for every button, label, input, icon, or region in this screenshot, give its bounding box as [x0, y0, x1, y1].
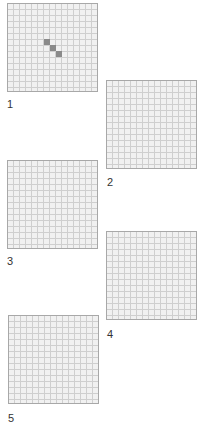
panel-label-3: 3	[7, 256, 13, 267]
panel-label-4: 4	[107, 329, 113, 340]
grid-panel-3	[7, 160, 98, 249]
panel-label-5: 5	[8, 413, 14, 424]
grid-panel-2	[106, 80, 197, 169]
panel-label-1: 1	[7, 99, 13, 110]
grid-panel-5	[8, 315, 99, 404]
panel-label-2: 2	[107, 177, 113, 188]
grid-panel-1	[7, 3, 98, 92]
shaded-cell	[56, 51, 62, 57]
grid-panel-4	[106, 231, 197, 320]
